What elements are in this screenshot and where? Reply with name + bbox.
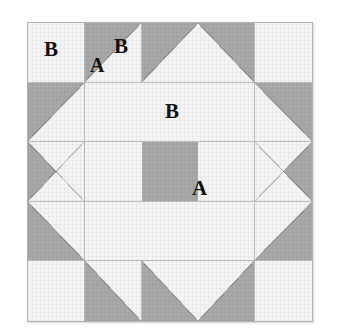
half-square-triangle-dark (85, 261, 141, 321)
patch-label-b-corner: B (44, 39, 58, 60)
patch-corner-square-top-right (255, 23, 312, 83)
patch-flying-geese-4 (85, 261, 142, 321)
patch-sash-bar-top-right (198, 83, 255, 143)
half-square-triangle-dark (198, 261, 254, 321)
patch-flying-geese-2 (142, 23, 199, 83)
half-square-triangle-dark (142, 261, 199, 321)
patch-sash-bar-bottom-center (142, 202, 199, 262)
patch-side-triangle-right-bottom (255, 202, 312, 262)
dark-patch (142, 142, 199, 201)
patch-flying-geese-3 (198, 23, 255, 83)
patch-side-triangle-left-mid (28, 142, 85, 202)
patch-label-b-triangle: B (114, 36, 128, 57)
quilt-grid (28, 23, 312, 321)
patch-sash-bar-left (85, 142, 142, 202)
light-triangle-upper (255, 142, 312, 201)
patch-label-b-bar: B (165, 101, 179, 122)
patch-sash-bar-bottom-left (85, 202, 142, 262)
patch-side-triangle-right-top (255, 83, 312, 143)
half-square-triangle-dark (198, 23, 254, 82)
patch-side-triangle-right-mid (255, 142, 312, 202)
patch-sash-bar-top-left (85, 83, 142, 143)
patch-sash-bar-bottom-right (198, 202, 255, 262)
patch-label-a-center: A (192, 178, 207, 199)
half-square-triangle-dark (142, 23, 199, 82)
patch-corner-square-bottom-right (255, 261, 312, 321)
patch-side-triangle-left-bottom (28, 202, 85, 262)
half-square-triangle-dark (28, 83, 84, 142)
half-square-triangle-dark (28, 202, 84, 261)
light-triangle-upper (28, 142, 84, 201)
patch-center-square (142, 142, 199, 202)
patch-flying-geese-5 (142, 261, 199, 321)
patch-side-triangle-left-top (28, 83, 85, 143)
half-square-triangle-dark (255, 83, 312, 142)
quilt-block: B A B B A (27, 22, 313, 322)
patch-label-a-triangle: A (90, 55, 104, 75)
patch-flying-geese-6 (198, 261, 255, 321)
half-square-triangle-dark (255, 202, 312, 261)
quilt-block-figure: B A B B A (0, 0, 340, 336)
patch-corner-square-bottom-left (28, 261, 85, 321)
